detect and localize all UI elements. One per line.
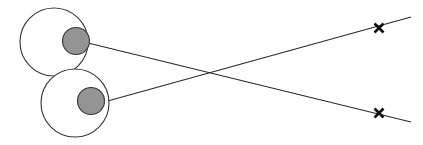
upper-x-target	[375, 24, 384, 33]
lower-pupil	[78, 88, 105, 115]
upper-eye	[20, 8, 90, 76]
eye-gaze-diagram	[0, 0, 423, 145]
lower-eye-gaze-line	[104, 17, 411, 102]
gaze-lines-group	[88, 17, 411, 122]
lower-eye	[41, 69, 109, 137]
upper-pupil	[63, 28, 90, 55]
upper-eye-gaze-line	[88, 43, 411, 122]
diagram-canvas: Two eyes with crossed gaze lines toward …	[0, 0, 423, 145]
